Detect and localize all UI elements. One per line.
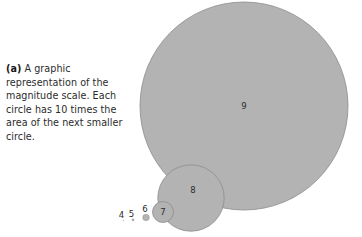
magnitude-circle-5: [132, 219, 134, 221]
circles-group: [123, 2, 348, 231]
magnitude-circle-4: [123, 220, 124, 221]
magnitude-label-8: 8: [190, 185, 195, 195]
magnitude-label-5: 5: [129, 209, 134, 219]
magnitude-label-6: 6: [142, 204, 147, 214]
magnitude-scale-diagram: 456789: [0, 0, 362, 237]
figure-panel-a: (a) A graphic representation of the magn…: [0, 0, 362, 237]
magnitude-label-9: 9: [241, 101, 246, 111]
magnitude-label-7: 7: [160, 207, 165, 217]
magnitude-circle-6: [143, 214, 150, 221]
magnitude-label-4: 4: [119, 210, 124, 220]
